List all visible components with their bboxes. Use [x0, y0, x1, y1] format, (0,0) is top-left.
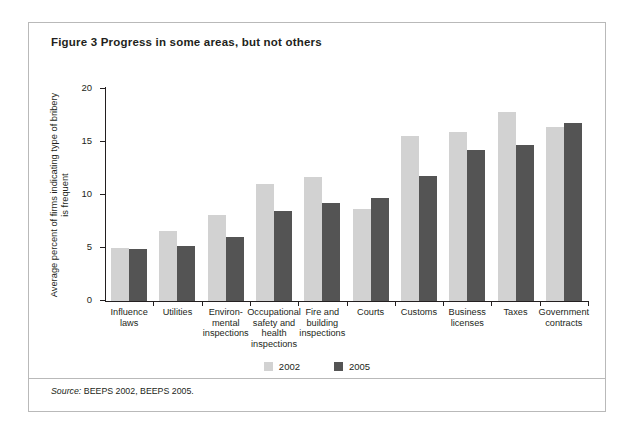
x-axis-tick: [395, 301, 396, 306]
bar-2005[interactable]: [274, 211, 292, 301]
bar-2005[interactable]: [129, 249, 147, 301]
bar-2005[interactable]: [177, 246, 195, 301]
bar-2002[interactable]: [401, 136, 419, 301]
bar-group: [401, 89, 437, 301]
chart-legend: 20022005: [29, 361, 605, 372]
source-label: Source:: [51, 386, 81, 396]
bar-2005[interactable]: [467, 150, 485, 301]
y-axis-tick-label: 10: [81, 188, 92, 199]
y-axis-tick: 5: [100, 247, 105, 248]
plot-area: 05101520: [105, 89, 588, 301]
legend-item-2005[interactable]: 2005: [334, 361, 370, 372]
y-axis-title-text: Average percent of firms indicating type…: [49, 89, 71, 301]
x-axis-tick: [443, 301, 444, 306]
y-axis-title: Average percent of firms indicating type…: [49, 0, 67, 89]
x-axis-label: Governmentcontracts: [534, 307, 594, 328]
source-note: Source: BEEPS 2002, BEEPS 2005.: [51, 386, 194, 396]
bar-2002[interactable]: [159, 231, 177, 301]
x-axis-label-line: inspections: [292, 328, 352, 339]
bar-2002[interactable]: [498, 112, 516, 301]
bar-2005[interactable]: [564, 123, 582, 301]
x-axis-tick: [491, 301, 492, 306]
y-axis-tick: 0: [100, 300, 105, 301]
bar-group: [256, 89, 292, 301]
bar-group: [546, 89, 582, 301]
x-axis-tick: [298, 301, 299, 306]
figure-frame: Figure 3 Progress in some areas, but not…: [28, 22, 606, 412]
x-axis-tick: [153, 301, 154, 306]
bar-2005[interactable]: [371, 198, 389, 301]
x-axis-label-line: Government: [534, 307, 594, 318]
x-axis-tick: [250, 301, 251, 306]
bar-group: [449, 89, 485, 301]
x-axis-tick: [347, 301, 348, 306]
x-axis-label-line: contracts: [534, 318, 594, 329]
y-axis-tick-label: 0: [87, 294, 92, 305]
y-axis-line: [105, 87, 106, 301]
x-axis-label-line: licenses: [437, 318, 497, 329]
bar-2002[interactable]: [111, 248, 129, 301]
bar-2005[interactable]: [322, 203, 340, 301]
x-axis-tick: [202, 301, 203, 306]
legend-swatch-icon: [334, 362, 343, 371]
bar-2002[interactable]: [546, 127, 564, 301]
legend-swatch-icon: [264, 362, 273, 371]
bar-2002[interactable]: [304, 177, 322, 301]
bar-group: [208, 89, 244, 301]
source-value: BEEPS 2002, BEEPS 2005.: [84, 386, 194, 396]
y-axis-tick-label: 15: [81, 135, 92, 146]
x-axis-label-line: laws: [99, 318, 159, 329]
bar-group: [304, 89, 340, 301]
bar-2002[interactable]: [256, 184, 274, 301]
y-axis-tick: 20: [100, 88, 105, 89]
source-divider: [29, 378, 605, 379]
y-axis-tick: 15: [100, 141, 105, 142]
bar-group: [159, 89, 195, 301]
legend-item-2002[interactable]: 2002: [264, 361, 300, 372]
legend-label: 2005: [349, 361, 370, 372]
x-axis-label-line: inspections: [244, 339, 304, 350]
bar-2005[interactable]: [226, 237, 244, 301]
legend-label: 2002: [279, 361, 300, 372]
bar-2002[interactable]: [208, 215, 226, 301]
bar-group: [498, 89, 534, 301]
x-axis-tick: [588, 301, 589, 306]
bar-2002[interactable]: [353, 209, 371, 301]
bar-2005[interactable]: [419, 176, 437, 301]
figure-title: Figure 3 Progress in some areas, but not…: [51, 36, 322, 48]
x-axis-tick: [540, 301, 541, 306]
bar-2005[interactable]: [516, 145, 534, 301]
bar-group: [353, 89, 389, 301]
bar-group: [111, 89, 147, 301]
y-axis-tick-label: 20: [81, 82, 92, 93]
y-axis-tick-label: 5: [87, 241, 92, 252]
bar-2002[interactable]: [449, 132, 467, 301]
y-axis-tick: 10: [100, 194, 105, 195]
x-axis-label-line: building: [292, 318, 352, 329]
